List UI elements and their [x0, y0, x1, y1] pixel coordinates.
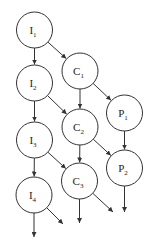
edge-c2-to-p2-arrow [93, 139, 111, 155]
outgoing-edge-i4-1-arrow [47, 208, 63, 224]
node-i1: I1 [17, 12, 53, 48]
node-p2: P2 [107, 150, 143, 186]
node-i3: I3 [17, 122, 53, 158]
outgoing-edge-c3-3-arrow [93, 193, 113, 212]
node-i4: I4 [16, 177, 52, 213]
directed-graph: I1I2I3I4C1C2C3P1P2 [0, 0, 157, 251]
node-c2: C2 [62, 109, 98, 145]
node-c1: C1 [62, 53, 98, 89]
edge-i3-to-c3-arrow [48, 152, 66, 168]
edge-c1-to-p1-arrow [93, 83, 111, 100]
diagram-canvas: I1I2I3I4C1C2C3P1P2 [0, 0, 157, 251]
node-p1: P1 [107, 95, 143, 131]
edge-i1-to-c1-arrow [48, 42, 66, 59]
node-i2: I2 [17, 65, 53, 101]
node-c3: C3 [62, 163, 98, 199]
edge-i2-to-c2-arrow [47, 96, 66, 115]
